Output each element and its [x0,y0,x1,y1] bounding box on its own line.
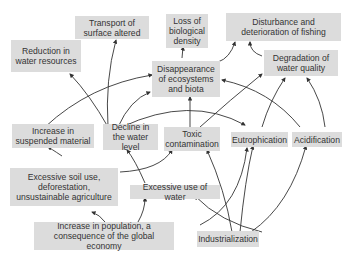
node-degradation: Degradation of water quality [264,50,338,76]
node-decline: Decline in the water level [103,124,158,150]
node-excessive-water: Excessive use of water [130,185,220,199]
node-eutrophication: Eutrophication [231,132,288,147]
node-disappearance: Disappearance of ecosystems and biota [152,61,220,97]
cause-effect-diagram: Transport of surface altered Loss of bio… [0,0,351,255]
node-soil-use: Excessive soil use, deforestation, unsus… [10,168,118,206]
node-reduction: Reduction in water resources [11,40,81,72]
node-acidification: Acidification [292,132,342,147]
node-increase-susp: Increase in suspended material [12,124,94,148]
node-loss-bio: Loss of biological density [166,14,208,48]
node-disturbance: Disturbance and deterioration of fishing [226,13,341,41]
node-population: Increase in population, a consequence of… [34,222,174,250]
node-toxic: Toxic contamination [164,127,220,151]
node-transport: Transport of surface altered [75,16,149,39]
node-industrialization: Industrialization [197,231,259,247]
